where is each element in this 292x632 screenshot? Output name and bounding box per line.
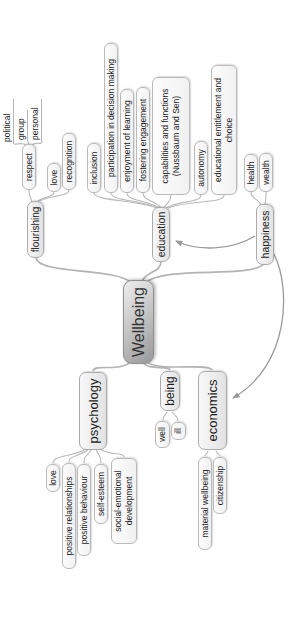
node-positive-behaviour[interactable]: positive behaviour: [77, 464, 91, 556]
edge-root-flourishing: [36, 257, 132, 283]
node-wealth[interactable]: wealth: [259, 153, 273, 192]
node-social-emotional-development[interactable]: social-emotional development: [111, 458, 137, 544]
node-educational-entitlement-and-choice[interactable]: educational entitlement and choice: [211, 65, 237, 195]
node-well[interactable]: well: [155, 421, 170, 448]
node-participation-in-decision-making[interactable]: participation in decision making: [104, 43, 118, 193]
node-material-wellbeing[interactable]: material wellbeing: [198, 457, 212, 550]
edge-education-entitlement: [168, 195, 224, 208]
node-flourishing[interactable]: flourishing: [27, 201, 44, 258]
edge-psychology-selfesteem: [96, 449, 101, 463]
node-wellbeing[interactable]: Wellbeing: [123, 280, 154, 364]
node-health[interactable]: health: [244, 154, 258, 192]
node-recognition[interactable]: recognition: [62, 133, 76, 190]
node-enjoyment-of-learning[interactable]: enjoyment of learning: [120, 89, 134, 193]
edge-being-well: [163, 412, 167, 420]
node-self-esteem[interactable]: self-esteem: [94, 464, 108, 524]
node-education[interactable]: education: [152, 207, 170, 262]
node-love-psychology[interactable]: love: [46, 464, 60, 492]
arrow-link-happiness-education: [176, 236, 255, 248]
edge-economics-material: [205, 451, 208, 456]
node-being[interactable]: being: [160, 371, 180, 411]
edge-root-economics: [146, 361, 212, 370]
node-respect[interactable]: respect: [22, 144, 36, 190]
edge-psychology-socialemotional: [100, 449, 124, 457]
node-positive-relationships[interactable]: positive relationships: [62, 463, 76, 569]
edge-economics-citizenship: [216, 451, 220, 456]
node-psychology[interactable]: psychology: [79, 372, 107, 450]
node-personal[interactable]: personal: [30, 99, 42, 141]
node-citizenship[interactable]: citizenship: [213, 457, 227, 514]
node-autonomy[interactable]: autonomy: [194, 141, 208, 195]
node-ill[interactable]: ill: [171, 422, 186, 440]
node-group[interactable]: group: [16, 110, 28, 141]
edge-being-ill: [172, 412, 178, 421]
edge-root-happiness: [145, 264, 264, 283]
node-happiness[interactable]: happiness: [256, 204, 274, 265]
edge-root-psychology: [93, 361, 131, 371]
wellbeing-mindmap: Wellbeing flourishing education happines…: [0, 0, 292, 632]
arrow-link-happiness-economics: [233, 254, 284, 398]
edge-education-inclusion: [94, 193, 157, 208]
node-economics[interactable]: economics: [198, 371, 227, 450]
node-political[interactable]: political: [2, 99, 14, 143]
node-fostering-engagement[interactable]: fostering engagement: [136, 87, 150, 193]
node-inclusion[interactable]: inclusion: [87, 143, 101, 193]
edge-happiness-health: [251, 192, 261, 205]
edge-root-education: [142, 261, 161, 281]
node-capabilities-and-functions[interactable]: capabilities and functions (Nussbaum and…: [152, 77, 190, 195]
node-love-flourishing[interactable]: love: [47, 163, 61, 192]
mindmap-canvas: Wellbeing flourishing education happines…: [0, 0, 292, 632]
